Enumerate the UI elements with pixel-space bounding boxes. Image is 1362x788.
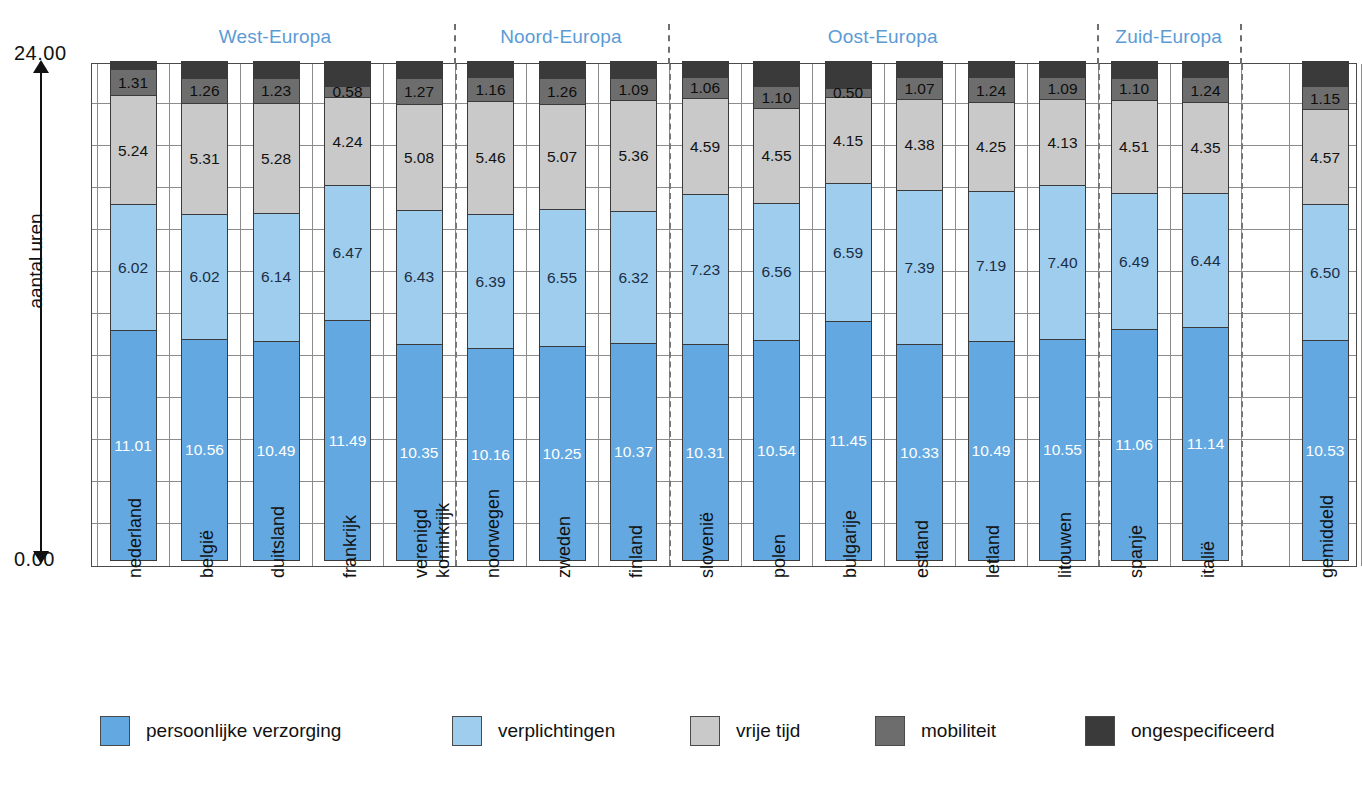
bar-segment-ongespec[interactable]: [1182, 61, 1229, 78]
bar-segment-ongespec[interactable]: [253, 61, 300, 79]
bar-segment-vrije[interactable]: 4.51: [1111, 100, 1158, 195]
bar-segment-vrije[interactable]: 5.24: [110, 95, 157, 205]
bar-segment-vrije[interactable]: 4.55: [753, 108, 800, 204]
bar-segment-persoonlijke[interactable]: 10.54: [753, 340, 800, 561]
bar-segment-vrije[interactable]: 5.31: [181, 103, 228, 215]
legend-item-ongespec[interactable]: ongespecificeerd: [1085, 716, 1275, 746]
bar-segment-verplichtingen[interactable]: 6.39: [467, 214, 514, 348]
bar-finland[interactable]: 1.095.366.3210.37: [610, 62, 657, 566]
bar-segment-verplichtingen[interactable]: 6.43: [396, 210, 443, 345]
segment-value-label: 4.25: [976, 139, 1006, 155]
vertical-gridline: [526, 64, 527, 566]
segment-value-label: 10.33: [900, 445, 939, 461]
bar-segment-verplichtingen[interactable]: 6.02: [110, 204, 157, 330]
bar-segment-vrije[interactable]: 4.57: [1302, 109, 1349, 205]
bar-segment-mobiliteit[interactable]: 1.24: [968, 77, 1015, 103]
segment-value-label: 1.26: [189, 83, 219, 99]
bar-segment-ongespec[interactable]: [539, 61, 586, 79]
bar-segment-ongespec[interactable]: [467, 61, 514, 78]
bar-segment-vrije[interactable]: 4.35: [1182, 102, 1229, 193]
bar-segment-verplichtingen[interactable]: 6.49: [1111, 193, 1158, 329]
bar-segment-vrije[interactable]: 4.15: [825, 97, 872, 184]
bar-segment-persoonlijke[interactable]: 11.14: [1182, 327, 1229, 561]
bar-segment-vrije[interactable]: 5.36: [610, 100, 657, 213]
vertical-gridline: [1170, 64, 1171, 566]
bar-segment-ongespec[interactable]: [968, 61, 1015, 78]
bar-segment-ongespec[interactable]: [610, 61, 657, 79]
bar-segment-mobiliteit[interactable]: 1.23: [253, 78, 300, 104]
bar-estland[interactable]: 1.074.387.3910.33: [896, 62, 943, 566]
bar-itali-[interactable]: 1.244.356.4411.14: [1182, 62, 1229, 566]
bar-segment-ongespec[interactable]: [753, 61, 800, 87]
bar-spanje[interactable]: 1.104.516.4911.06: [1111, 62, 1158, 566]
bar-nederland[interactable]: 1.315.246.0211.01: [110, 62, 157, 566]
bar-segment-verplichtingen[interactable]: 6.32: [610, 211, 657, 344]
bar-verenigd-koninkrijk[interactable]: 1.275.086.4310.35: [396, 62, 443, 566]
bar-segment-mobiliteit[interactable]: 1.27: [396, 78, 443, 105]
bar-segment-mobiliteit[interactable]: 1.10: [753, 86, 800, 109]
segment-value-label: 1.26: [547, 84, 577, 100]
bar-segment-mobiliteit[interactable]: 1.06: [682, 77, 729, 99]
bar-segment-vrije[interactable]: 4.59: [682, 98, 729, 194]
bar-segment-ongespec[interactable]: [1039, 61, 1086, 78]
segment-value-label: 4.24: [332, 134, 362, 150]
bar-zweden[interactable]: 1.265.076.5510.25: [539, 62, 586, 566]
bar-segment-mobiliteit[interactable]: 1.31: [110, 69, 157, 97]
bar-segment-vrije[interactable]: 5.08: [396, 104, 443, 211]
bar-frankrijk[interactable]: 0.584.246.4711.49: [324, 62, 371, 566]
legend-item-persoonlijke[interactable]: persoonlijke verzorging: [100, 716, 341, 746]
bar-segment-vrije[interactable]: 4.25: [968, 102, 1015, 191]
bar-segment-mobiliteit[interactable]: 1.16: [467, 77, 514, 101]
bar-polen[interactable]: 1.104.556.5610.54: [753, 62, 800, 566]
bar-bulgarije[interactable]: 0.504.156.5911.45: [825, 62, 872, 566]
bar-segment-ongespec[interactable]: [396, 61, 443, 79]
bar-segment-verplichtingen[interactable]: 6.55: [539, 209, 586, 347]
segment-value-label: 11.14: [1187, 436, 1225, 452]
legend-item-mobiliteit[interactable]: mobiliteit: [875, 716, 996, 746]
bar-segment-vrije[interactable]: 4.38: [896, 99, 943, 191]
bar-litouwen[interactable]: 1.094.137.4010.55: [1039, 62, 1086, 566]
bar-segment-ongespec[interactable]: [682, 61, 729, 78]
group-title: Noord-Europa: [454, 26, 669, 48]
bar-segment-persoonlijke[interactable]: 10.56: [181, 339, 228, 561]
bar-segment-verplichtingen[interactable]: 6.02: [181, 214, 228, 340]
bar-segment-ongespec[interactable]: [1111, 61, 1158, 79]
bar-segment-mobiliteit[interactable]: 1.09: [1039, 77, 1086, 100]
bar-segment-mobiliteit[interactable]: 1.26: [181, 78, 228, 104]
bar-segment-mobiliteit[interactable]: 1.26: [539, 78, 586, 104]
bar-segment-ongespec[interactable]: [1302, 61, 1349, 87]
bar-segment-vrije[interactable]: 4.24: [324, 97, 371, 186]
bar-segment-verplichtingen[interactable]: 6.56: [753, 203, 800, 341]
bar-segment-mobiliteit[interactable]: 1.24: [1182, 77, 1229, 103]
bar-segment-verplichtingen[interactable]: 6.14: [253, 213, 300, 342]
bar-segment-verplichtingen[interactable]: 6.50: [1302, 204, 1349, 341]
bar-gemiddeld[interactable]: 1.154.576.5010.53: [1302, 62, 1349, 566]
legend-item-verplichtingen[interactable]: verplichtingen: [452, 716, 615, 746]
bar-sloveni-[interactable]: 1.064.597.2310.31: [682, 62, 729, 566]
bar-segment-verplichtingen[interactable]: 7.19: [968, 191, 1015, 342]
bar-segment-vrije[interactable]: 5.07: [539, 104, 586, 210]
bar-segment-verplichtingen[interactable]: 7.40: [1039, 185, 1086, 340]
bar-duitsland[interactable]: 1.235.286.1410.49: [253, 62, 300, 566]
vertical-gridline: [1289, 64, 1290, 566]
bar-belgi-[interactable]: 1.265.316.0210.56: [181, 62, 228, 566]
bar-segment-ongespec[interactable]: [896, 61, 943, 78]
bar-segment-mobiliteit[interactable]: 1.10: [1111, 78, 1158, 101]
legend-item-vrije[interactable]: vrije tijd: [690, 716, 800, 746]
bar-segment-verplichtingen[interactable]: 6.44: [1182, 193, 1229, 328]
bar-segment-mobiliteit[interactable]: 1.07: [896, 77, 943, 99]
bar-segment-mobiliteit[interactable]: 1.15: [1302, 86, 1349, 110]
y-axis-arrow-down-icon: [33, 551, 49, 564]
bar-segment-vrije[interactable]: 5.46: [467, 101, 514, 216]
bar-segment-verplichtingen[interactable]: 6.47: [324, 185, 371, 321]
bar-segment-ongespec[interactable]: [181, 61, 228, 79]
bar-segment-verplichtingen[interactable]: 6.59: [825, 183, 872, 321]
bar-segment-verplichtingen[interactable]: 7.23: [682, 194, 729, 346]
bar-letland[interactable]: 1.244.257.1910.49: [968, 62, 1015, 566]
chart-legend: persoonlijke verzorgingverplichtingenvri…: [0, 716, 1362, 772]
bar-segment-verplichtingen[interactable]: 7.39: [896, 190, 943, 345]
segment-value-label: 1.09: [1047, 81, 1077, 97]
bar-segment-vrije[interactable]: 5.28: [253, 103, 300, 214]
bar-segment-mobiliteit[interactable]: 1.09: [610, 78, 657, 101]
bar-segment-vrije[interactable]: 4.13: [1039, 99, 1086, 186]
